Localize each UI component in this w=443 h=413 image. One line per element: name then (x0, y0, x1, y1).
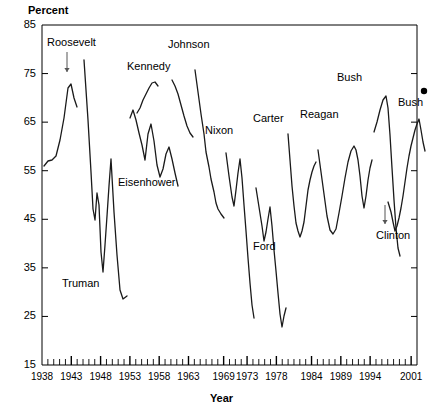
x-tick-label-1963: 1963 (168, 371, 208, 382)
chart-canvas (0, 0, 443, 413)
y-tick-label-15: 15 (14, 358, 36, 370)
series-line-eisenhower (130, 110, 178, 186)
y-tick-label-65: 65 (14, 115, 36, 127)
president-label-johnson: Johnson (168, 38, 210, 50)
y-tick-label-55: 55 (14, 164, 36, 176)
x-tick-label-1994: 1994 (350, 371, 390, 382)
y-tick-label-45: 45 (14, 212, 36, 224)
series-line-roosevelt (44, 84, 77, 166)
president-label-truman: Truman (62, 277, 100, 289)
president-label-bush-41: Bush (337, 71, 362, 83)
presidential-approval-chart: Percent Year 1525354555657585 1938194319… (0, 0, 443, 413)
annotation-arrow-head-roosevelt (64, 68, 69, 72)
series-line-clinton (388, 119, 425, 231)
bush-43-point (421, 88, 427, 94)
y-tick-label-75: 75 (14, 67, 36, 79)
president-label-eisenhower: Eisenhower (118, 176, 175, 188)
president-label-bush-43: Bush (398, 96, 423, 108)
series-line-johnson (172, 80, 193, 137)
x-tick-label-1978: 1978 (256, 371, 296, 382)
series-line-carter (288, 134, 316, 237)
series-line-nixon (195, 70, 224, 218)
series-line-reagan (318, 146, 372, 234)
series-line-ford (256, 188, 286, 327)
y-tick-label-35: 35 (14, 261, 36, 273)
president-label-nixon: Nixon (205, 124, 233, 136)
president-label-roosevelt: Roosevelt (47, 36, 96, 48)
president-label-reagan: Reagan (300, 108, 339, 120)
annotation-arrow-head-clinton (382, 220, 387, 224)
president-label-ford: Ford (253, 240, 276, 252)
president-label-carter: Carter (253, 112, 284, 124)
y-tick-label-25: 25 (14, 309, 36, 321)
y-tick-label-85: 85 (14, 18, 36, 30)
x-tick-label-2001: 2001 (391, 371, 431, 382)
series-line-nixon-2 (226, 153, 254, 318)
president-label-clinton: Clinton (376, 229, 410, 241)
series-line-kennedy (137, 82, 158, 113)
president-label-kennedy: Kennedy (127, 60, 170, 72)
